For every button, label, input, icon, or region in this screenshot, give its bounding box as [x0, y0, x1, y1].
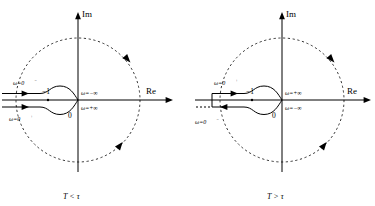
- omega-lower-right-left-panel: ω=+∞: [81, 105, 98, 111]
- omega-upper-left-sup: −: [35, 78, 38, 83]
- caption-right-panel: T > τ: [267, 192, 285, 201]
- pole-label-left: −1: [42, 87, 50, 96]
- circle-arrow-upper-right-panel: [326, 54, 336, 65]
- caption-left-panel: T < τ: [63, 192, 81, 201]
- omega-lower-right-right-panel: ω=−∞: [285, 105, 302, 111]
- re-axis-arrowhead-left: [166, 97, 173, 103]
- omega-lower-left-sup: +: [31, 114, 34, 119]
- contour-lower-left-panel: [2, 100, 78, 115]
- contour-arrow-lower-right-panel: [220, 104, 227, 110]
- panel-right: Im Re 0 −1 ω=0 + ω=0 − ω=+∞ ω=−∞ T > τ: [195, 9, 371, 201]
- contour-arrow-lower-left-panel: [22, 104, 29, 110]
- pole-marker-right: [251, 99, 253, 101]
- nyquist-contour-figure: Im Re 0 −1 ω=0 − ω=0 + ω=−∞ ω=+∞: [0, 0, 375, 206]
- re-axis-label-left: Re: [146, 86, 156, 96]
- omega-lower-left-text-right: ω=0: [195, 119, 206, 125]
- omega-upper-right-left-panel: ω=−∞: [81, 90, 98, 96]
- omega-lower-left-sup-right: −: [217, 117, 220, 122]
- omega-lower-left-right-panel: ω=0 −: [195, 117, 220, 125]
- omega-upper-left-text-right: ω=0: [214, 80, 225, 86]
- circle-arrow-lower-right-panel: [319, 140, 329, 151]
- panel-left: Im Re 0 −1 ω=0 − ω=0 + ω=−∞ ω=+∞: [2, 9, 173, 201]
- pole-marker-left: [47, 99, 49, 101]
- omega-upper-left-sup-right: +: [236, 78, 239, 83]
- omega-lower-left-text: ω=0: [9, 116, 20, 122]
- contour-arrow-upper-left-panel: [22, 91, 29, 97]
- circle-arrow-upper-left-panel: [122, 54, 132, 65]
- im-axis-label-left: Im: [82, 9, 92, 19]
- re-axis-label-right: Re: [347, 86, 357, 96]
- im-axis-label-right: Im: [286, 9, 296, 19]
- omega-lower-left-panel: ω=0 +: [9, 114, 34, 122]
- omega-upper-right-right-panel: ω=+∞: [285, 90, 302, 96]
- omega-upper-left-panel: ω=0 −: [13, 78, 38, 86]
- omega-upper-left-right-panel: ω=0 +: [214, 78, 239, 86]
- pole-label-right: −1: [246, 87, 254, 96]
- im-axis-arrowhead-right: [279, 12, 285, 19]
- contour-upper-left-panel: [2, 86, 78, 100]
- omega-upper-left-text: ω=0: [13, 80, 24, 86]
- im-axis-arrowhead-left: [75, 12, 81, 19]
- circle-arrow-lower-left-panel: [115, 140, 125, 151]
- re-axis-arrowhead-right: [364, 97, 371, 103]
- contour-arrow-upper-right-panel: [231, 91, 238, 97]
